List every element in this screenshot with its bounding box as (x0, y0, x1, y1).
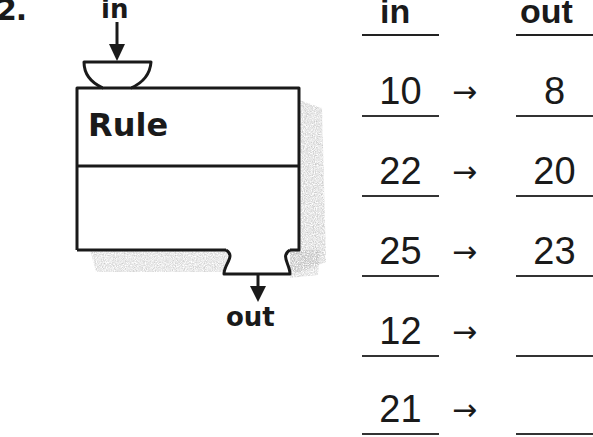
machine-input-label: in (101, 0, 128, 24)
input-value: 12 (362, 310, 439, 353)
output-answer-line (516, 195, 593, 197)
right-arrow-icon: → (452, 392, 477, 427)
input-underline (362, 275, 439, 277)
output-value: 8 (516, 70, 593, 113)
input-value: 25 (362, 230, 439, 273)
right-arrow-icon: → (452, 154, 477, 189)
output-value: 20 (516, 150, 593, 193)
table-row: 25 → 23 (0, 230, 593, 310)
input-value: 21 (362, 388, 439, 431)
right-arrow-icon: → (452, 314, 477, 349)
input-value: 10 (362, 70, 439, 113)
output-answer-line (516, 115, 593, 117)
header-underline-out (516, 34, 593, 36)
input-underline (362, 195, 439, 197)
input-value: 22 (362, 150, 439, 193)
input-underline (362, 355, 439, 357)
table-row: 10 → 8 (0, 70, 593, 150)
output-answer-line[interactable] (516, 355, 593, 357)
right-arrow-icon: → (452, 234, 477, 269)
output-answer-line[interactable] (516, 433, 593, 435)
column-header-in: in (380, 0, 410, 31)
input-underline (362, 433, 439, 435)
right-arrow-icon: → (452, 74, 477, 109)
table-row: 22 → 20 (0, 150, 593, 230)
column-header-out: out (520, 0, 573, 31)
output-answer-line (516, 275, 593, 277)
input-underline (362, 115, 439, 117)
header-underline-in (362, 34, 439, 36)
output-value: 23 (516, 230, 593, 273)
input-arrow-icon (109, 22, 125, 61)
table-row: 12 → (0, 310, 593, 390)
table-row: 21 → (0, 388, 593, 437)
